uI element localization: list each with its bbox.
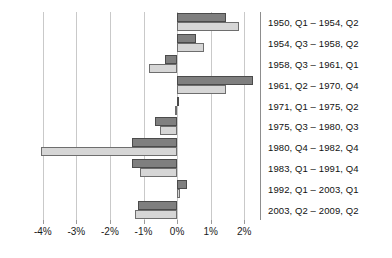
x-tick-label-3: -1% [135,226,153,237]
x-tickmark-0 [43,220,44,224]
bar-group [26,33,261,54]
bar-group [26,116,261,137]
x-tickmark-2 [110,220,111,224]
bar-series-dark-5 [155,117,177,126]
bar-series-dark-6 [132,138,177,147]
x-tick-label-5: 1% [203,226,217,237]
bar-series-light-2 [149,64,178,73]
bar-series-light-6 [41,147,177,156]
x-tickmark-5 [211,220,212,224]
bar-chart: -4%-3%-2%-1%0%1%2% 1950, Q1 – 1954, Q219… [0,0,392,258]
bar-series-light-8 [177,189,180,198]
x-tick-label-4: 0% [170,226,184,237]
bar-group [26,199,261,220]
plot-area [26,12,261,220]
x-tick-label-2: -2% [101,226,119,237]
bar-group [26,74,261,95]
category-label-1: 1954, Q3 – 1958, Q2 [268,38,359,49]
bar-group [26,178,261,199]
category-label-4: 1971, Q1 – 1975, Q2 [268,100,359,111]
bar-series-dark-4 [177,97,179,106]
category-label-0: 1950, Q1 – 1954, Q2 [268,17,359,28]
bar-group [26,137,261,158]
x-tickmark-1 [76,220,77,224]
bar-series-light-4 [175,106,177,115]
bar-series-light-5 [160,126,177,135]
bar-group [26,95,261,116]
category-label-6: 1980, Q4 – 1982, Q4 [268,142,359,153]
bar-series-dark-8 [177,180,187,189]
bar-series-dark-1 [177,34,195,43]
category-label-9: 2003, Q2 – 2009, Q2 [268,204,359,215]
bar-series-dark-7 [132,159,177,168]
bar-group [26,12,261,33]
bar-series-light-3 [177,85,226,94]
bar-series-dark-0 [177,13,226,22]
x-axis-tick-labels: -4%-3%-2%-1%0%1%2% [26,226,261,242]
bar-group [26,158,261,179]
category-label-7: 1983, Q1 – 1991, Q4 [268,163,359,174]
bar-series-light-9 [135,210,177,219]
x-tick-label-1: -3% [67,226,85,237]
x-tick-label-0: -4% [34,226,52,237]
category-label-2: 1958, Q3 – 1961, Q1 [268,59,359,70]
x-tickmark-4 [177,220,178,224]
category-label-5: 1975, Q3 – 1980, Q3 [268,121,359,132]
bar-series-light-7 [140,168,177,177]
x-tick-label-6: 2% [237,226,251,237]
bar-series-light-0 [177,22,239,31]
bar-series-light-1 [177,43,204,52]
bar-series-dark-3 [177,76,253,85]
bar-series-dark-9 [138,201,177,210]
category-label-8: 1992, Q1 – 2003, Q1 [268,183,359,194]
x-tickmark-3 [144,220,145,224]
category-labels: 1950, Q1 – 1954, Q21954, Q3 – 1958, Q219… [268,12,392,220]
category-label-3: 1961, Q2 – 1970, Q4 [268,79,359,90]
bar-group [26,54,261,75]
bar-series-dark-2 [165,55,177,64]
x-tickmark-6 [244,220,245,224]
